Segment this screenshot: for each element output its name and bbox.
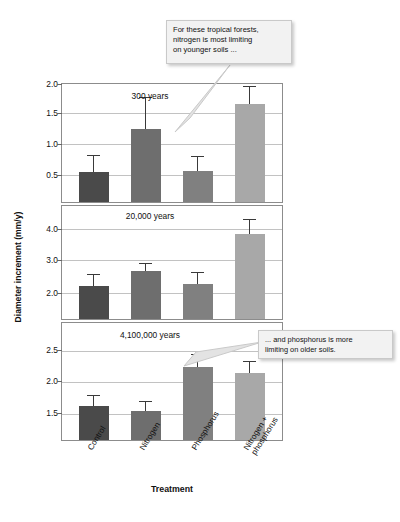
y-tick-mark bbox=[57, 229, 62, 230]
y-tick-mark bbox=[57, 175, 62, 176]
error-bar-control bbox=[93, 156, 94, 172]
bar-phosphorus bbox=[183, 284, 213, 319]
bar-nitrogen-phosphorus bbox=[235, 234, 265, 319]
y-tick-label: 2.5 bbox=[28, 345, 58, 355]
y-tick-label: 1.5 bbox=[28, 108, 58, 118]
y-axis-label: Diameter increment (mm/y) bbox=[13, 187, 23, 347]
y-tick-label: 1.5 bbox=[28, 408, 58, 418]
chart-panel-20000-years bbox=[61, 205, 283, 320]
bar-control bbox=[79, 172, 109, 202]
y-tick-mark bbox=[57, 350, 62, 351]
error-bar-cap-nitrogen-phosphorus bbox=[243, 219, 256, 220]
error-bar-cap-nitrogen bbox=[139, 401, 152, 402]
y-tick-label: 2.0 bbox=[28, 288, 58, 298]
panel-title-4100000-years: 4,100,000 years bbox=[120, 330, 180, 340]
figure-root: Diameter increment (mm/y) 2.0 1.5 1.0 0.… bbox=[0, 0, 400, 522]
error-bar-cap-nitrogen-phosphorus bbox=[243, 86, 256, 87]
y-tick-label: 0.5 bbox=[28, 170, 58, 180]
x-axis-label: Treatment bbox=[61, 484, 283, 494]
bar-control bbox=[79, 286, 109, 319]
error-bar-nitrogen bbox=[145, 402, 146, 411]
error-bar-nitrogen bbox=[145, 264, 146, 271]
error-bar-cap-control bbox=[87, 395, 100, 396]
error-bar-nitrogen-phosphorus bbox=[249, 220, 250, 234]
error-bar-cap-control bbox=[87, 274, 100, 275]
y-tick-mark bbox=[57, 84, 62, 85]
y-tick-mark bbox=[57, 381, 62, 382]
y-tick-mark bbox=[57, 413, 62, 414]
y-tick-mark bbox=[57, 113, 62, 114]
y-tick-label: 3.0 bbox=[28, 255, 58, 265]
callout-upper: For these tropical forests, nitrogen is … bbox=[166, 20, 292, 64]
y-tick-label: 2.0 bbox=[28, 376, 58, 386]
y-tick-label: 2.0 bbox=[28, 79, 58, 89]
y-tick-mark bbox=[57, 144, 62, 145]
error-bar-control bbox=[93, 396, 94, 406]
y-tick-mark bbox=[57, 260, 62, 261]
callout-lower: ... and phosphorus is more limiting on o… bbox=[258, 330, 393, 359]
error-bar-nitrogen-phosphorus bbox=[249, 87, 250, 104]
bar-nitrogen bbox=[131, 271, 161, 320]
panel-title-20000-years: 20,000 years bbox=[126, 211, 174, 221]
y-tick-mark bbox=[57, 293, 62, 294]
callout-upper-tail bbox=[130, 60, 240, 180]
error-bar-cap-nitrogen bbox=[139, 263, 152, 264]
error-bar-control bbox=[93, 275, 94, 286]
y-tick-label: 1.0 bbox=[28, 139, 58, 149]
y-tick-label: 4.0 bbox=[28, 224, 58, 234]
error-bar-phosphorus bbox=[197, 273, 198, 284]
error-bar-cap-phosphorus bbox=[191, 272, 204, 273]
error-bar-cap-control bbox=[87, 155, 100, 156]
